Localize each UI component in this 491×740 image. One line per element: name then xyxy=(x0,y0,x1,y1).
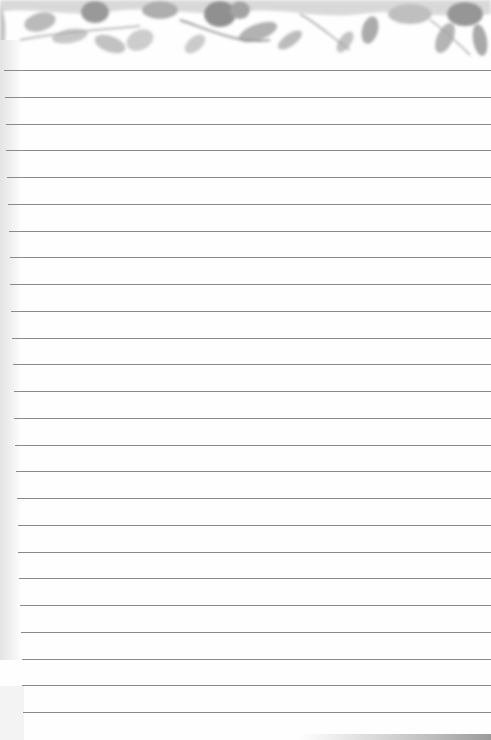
ruled-line xyxy=(18,552,491,553)
ruled-line xyxy=(18,525,491,526)
ruled-line xyxy=(11,311,491,312)
ruled-line xyxy=(20,605,491,606)
ruled-line xyxy=(9,231,491,232)
scan-shadow-bottom xyxy=(300,734,491,740)
ruled-line xyxy=(23,712,491,713)
ruled-line xyxy=(10,284,491,285)
ruled-line xyxy=(4,70,491,71)
floral-banner xyxy=(0,0,491,66)
ruled-line xyxy=(15,445,491,446)
ruled-line xyxy=(17,498,491,499)
ruled-line xyxy=(21,632,491,633)
floral-leaves-icon xyxy=(0,0,491,66)
ruled-line xyxy=(19,578,491,579)
ruled-line xyxy=(10,257,491,258)
notepaper xyxy=(0,0,491,740)
scan-shadow-left xyxy=(0,40,22,660)
ruled-line xyxy=(14,391,491,392)
ruled-line xyxy=(22,685,491,686)
ruled-line xyxy=(16,471,491,472)
ruled-line xyxy=(12,338,491,339)
ruled-line xyxy=(14,418,491,419)
ruled-line xyxy=(5,97,491,98)
ruled-line xyxy=(6,150,491,151)
ruled-line xyxy=(7,177,491,178)
ruled-line xyxy=(22,659,491,660)
ruled-line xyxy=(13,364,491,365)
ruled-line xyxy=(6,124,491,125)
scan-patch-bottom-left xyxy=(0,686,24,740)
ruled-line xyxy=(8,204,491,205)
